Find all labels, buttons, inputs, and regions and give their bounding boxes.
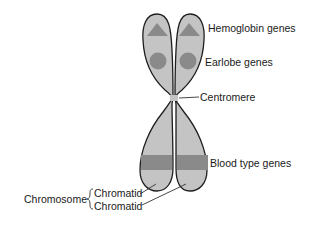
earlobe-gene-marker-right [180,53,197,70]
blood-type-gene-marker-right [177,155,208,170]
label-hemoglobin-genes: Hemoglobin genes [208,22,296,34]
centromere-leader-line [179,97,199,98]
chromosome-diagram: Hemoglobin genes Earlobe genes Centromer… [0,0,311,226]
centromere [170,95,178,101]
left-chromatid [140,14,173,191]
earlobe-gene-marker-left [150,53,167,70]
blood-type-gene-marker-left [141,155,172,170]
label-chromatid-1: Chromatid [94,187,143,199]
chromosome-brace [87,189,93,209]
label-chromatid-2: Chromatid [94,200,143,212]
label-centromere: Centromere [200,91,256,103]
label-earlobe-genes: Earlobe genes [205,56,273,68]
label-chromosome: Chromosome [24,193,87,205]
label-blood-type-genes: Blood type genes [210,157,291,169]
